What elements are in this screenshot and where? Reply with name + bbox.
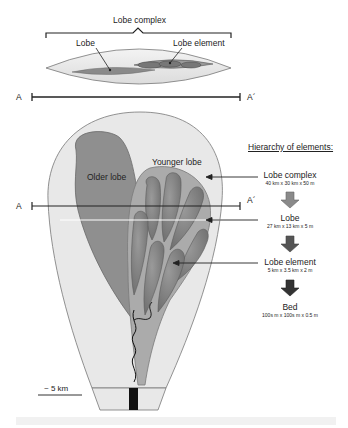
hierarchy-level: Lobe complex 40 km x 30 km x 50 m [250,170,330,187]
level-name: Bed [250,302,330,312]
plan-section-start-label: A [16,201,22,211]
older-lobe-label: Older lobe [87,172,126,182]
lobe-complex-brace [46,28,231,38]
younger-lobe-label: Younger lobe [152,157,202,167]
level-name: Lobe [250,213,330,223]
hierarchy-arrows [281,192,299,296]
lobe-element-label: Lobe element [173,38,225,48]
footer-band [16,417,336,425]
lobe-label: Lobe [76,38,95,48]
level-dimensions: 100s m x 100s m x 0.5 m [250,312,330,319]
plan-section-end-label: A´ [247,195,256,205]
level-dimensions: 40 km x 30 km x 50 m [250,180,330,187]
hierarchy-level: Lobe 27 km x 13 km x 5 m [250,213,330,230]
level-dimensions: 27 km x 13 km x 5 m [250,223,330,230]
down-arrow-icon [281,192,299,208]
section-end-label: A´ [247,92,256,102]
level-name: Lobe element [250,257,330,267]
down-arrow-icon [281,236,299,252]
lobe-complex-lens [46,49,231,84]
hierarchy-level: Bed 100s m x 100s m x 0.5 m [250,302,330,319]
plan-view [32,112,240,410]
hierarchy-level: Lobe element 5 km x 3.5 km x 2 m [250,257,330,274]
section-start-label: A [16,92,22,102]
level-dimensions: 5 km x 3.5 km x 2 m [250,267,330,274]
level-name: Lobe complex [250,170,330,180]
down-arrow-icon [281,280,299,296]
scale-bar-label: ~ 5 km [44,384,68,393]
hierarchy-title: Hierarchy of elements: [248,142,333,152]
lobe-complex-title: Lobe complex [113,15,166,25]
